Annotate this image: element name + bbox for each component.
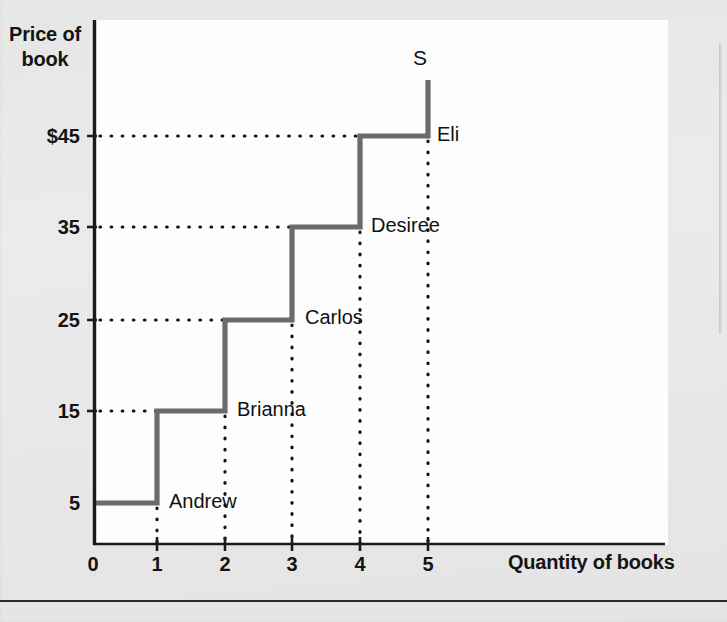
x-tick-label-2: 2: [205, 553, 245, 576]
page-divider-rule: [0, 600, 727, 602]
y-tick-label-35: 35: [6, 216, 80, 239]
y-axis-title-line-2: book: [2, 47, 88, 72]
x-tick-label-3: 3: [272, 553, 312, 576]
page-edge-artifact: [719, 44, 722, 334]
y-tick-label-5: 5: [6, 492, 80, 515]
supply-curve-chart: [0, 0, 727, 622]
annotation-supply-curve-s: S: [413, 46, 427, 70]
supply-step-curve: [93, 80, 428, 503]
y-tick-label-25: 25: [6, 309, 80, 332]
x-axis-title: Quantity of books: [508, 551, 675, 574]
horizontal-leader-lines: [100, 136, 428, 411]
annotation-andrew: Andrew: [169, 490, 237, 513]
annotation-eli: Eli: [437, 123, 459, 146]
x-tick-label-4: 4: [340, 553, 380, 576]
y-tick-label-15: 15: [6, 400, 80, 423]
annotation-brianna: Brianna: [237, 398, 306, 421]
x-tick-label-0: 0: [73, 553, 113, 576]
vertical-drop-lines: [157, 141, 428, 543]
y-tick-label-45: $45: [6, 125, 80, 148]
y-axis-title: Price of book: [2, 22, 88, 72]
supply-curve-figure: Price of book Quantity of books $45 35 2…: [0, 0, 727, 622]
y-axis-title-line-1: Price of: [2, 22, 88, 47]
annotation-desiree: Desiree: [371, 214, 440, 237]
x-tick-label-1: 1: [137, 553, 177, 576]
annotation-carlos: Carlos: [305, 306, 363, 329]
x-tick-label-5: 5: [408, 553, 448, 576]
